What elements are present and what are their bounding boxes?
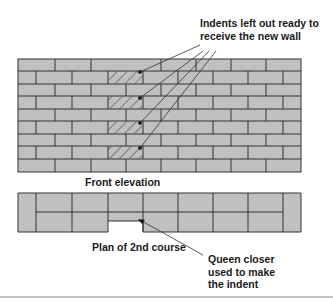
queen-closer-line3: the indent bbox=[208, 278, 275, 291]
indents-label: Indents left out ready to receive the ne… bbox=[200, 17, 319, 42]
queen-closer-line2: used to make bbox=[208, 266, 275, 279]
front-elevation-wall bbox=[18, 59, 301, 172]
queen-closer-label: Queen closer used to make the indent bbox=[208, 253, 275, 291]
indents-label-line2: receive the new wall bbox=[200, 30, 319, 43]
plan-label: Plan of 2nd course bbox=[92, 241, 186, 254]
indents-label-line1: Indents left out ready to bbox=[200, 17, 319, 30]
queen-closer-line1: Queen closer bbox=[208, 253, 275, 266]
plan-2nd-course bbox=[18, 193, 301, 232]
front-elevation-label: Front elevation bbox=[85, 176, 160, 189]
brickwork-diagram bbox=[0, 0, 333, 301]
